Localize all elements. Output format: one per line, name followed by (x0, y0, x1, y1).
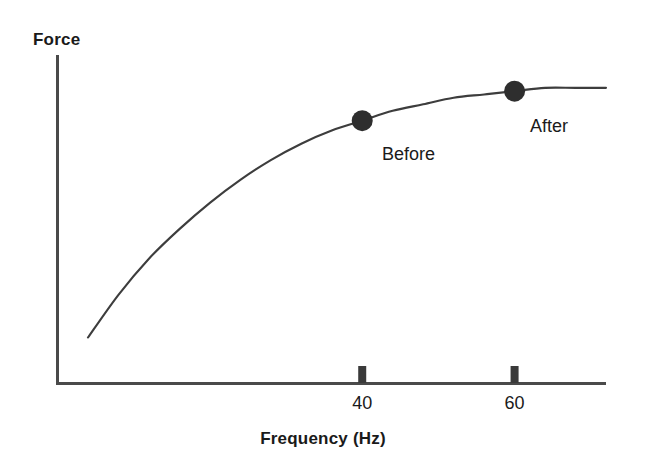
x-tick-label-40: 40 (352, 394, 372, 412)
x-tick-mark-40 (358, 366, 366, 383)
y-axis-title: Force (33, 31, 80, 48)
data-point-after[interactable] (504, 81, 525, 102)
annotation-label-after: After (530, 117, 568, 135)
x-tick-label-60: 60 (505, 394, 525, 412)
chart-plot-area (0, 0, 646, 475)
force-frequency-chart: Force Frequency (Hz) 40 60 Before After (0, 0, 646, 475)
force-frequency-curve (88, 88, 606, 338)
annotation-label-before: Before (382, 145, 435, 163)
data-point-before[interactable] (352, 110, 373, 131)
x-tick-mark-60 (511, 366, 519, 383)
x-axis-title: Frequency (Hz) (0, 430, 646, 447)
